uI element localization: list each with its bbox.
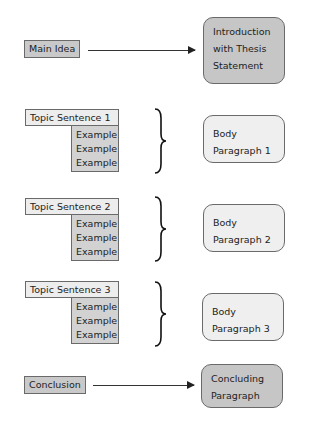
example-item: Example	[76, 142, 114, 156]
topic-sentence-label: Topic Sentence 3	[30, 284, 111, 295]
body-paragraph-label: Body Paragraph 2	[213, 217, 271, 245]
brace-2	[152, 196, 168, 262]
example-item: Example	[76, 328, 114, 342]
brace-3	[152, 281, 168, 347]
main-idea-box: Main Idea	[24, 40, 80, 58]
example-item: Example	[76, 245, 114, 259]
example-item: Example	[76, 217, 114, 231]
concluding-paragraph-box: Concluding Paragraph	[201, 364, 283, 408]
topic-sentence-label: Topic Sentence 1	[30, 112, 111, 123]
examples-2: Example Example Example	[71, 215, 119, 261]
topic-sentence-3: Topic Sentence 3	[25, 281, 119, 298]
intro-arrow	[88, 50, 195, 51]
body-paragraph-2-box: Body Paragraph 2	[203, 204, 285, 252]
body-paragraph-label: Body Paragraph 1	[213, 128, 271, 156]
conclusion-arrow	[93, 385, 194, 386]
example-item: Example	[76, 314, 114, 328]
examples-3: Example Example Example	[71, 298, 119, 344]
main-idea-label: Main Idea	[29, 43, 75, 54]
example-item: Example	[76, 231, 114, 245]
introduction-box: Introduction with Thesis Statement	[203, 17, 285, 84]
body-paragraph-3-box: Body Paragraph 3	[202, 293, 284, 341]
example-item: Example	[76, 156, 114, 170]
topic-sentence-2: Topic Sentence 2	[25, 198, 119, 215]
example-item: Example	[76, 128, 114, 142]
body-paragraph-1-box: Body Paragraph 1	[203, 115, 285, 163]
topic-sentence-1: Topic Sentence 1	[25, 109, 119, 126]
examples-1: Example Example Example	[71, 126, 119, 172]
concluding-paragraph-label: Concluding Paragraph	[211, 373, 264, 401]
brace-1	[152, 108, 168, 174]
conclusion-box: Conclusion	[24, 376, 86, 394]
body-paragraph-label: Body Paragraph 3	[212, 306, 270, 334]
example-item: Example	[76, 300, 114, 314]
topic-sentence-label: Topic Sentence 2	[30, 201, 111, 212]
introduction-label: Introduction with Thesis Statement	[213, 26, 271, 71]
conclusion-label: Conclusion	[29, 379, 81, 390]
